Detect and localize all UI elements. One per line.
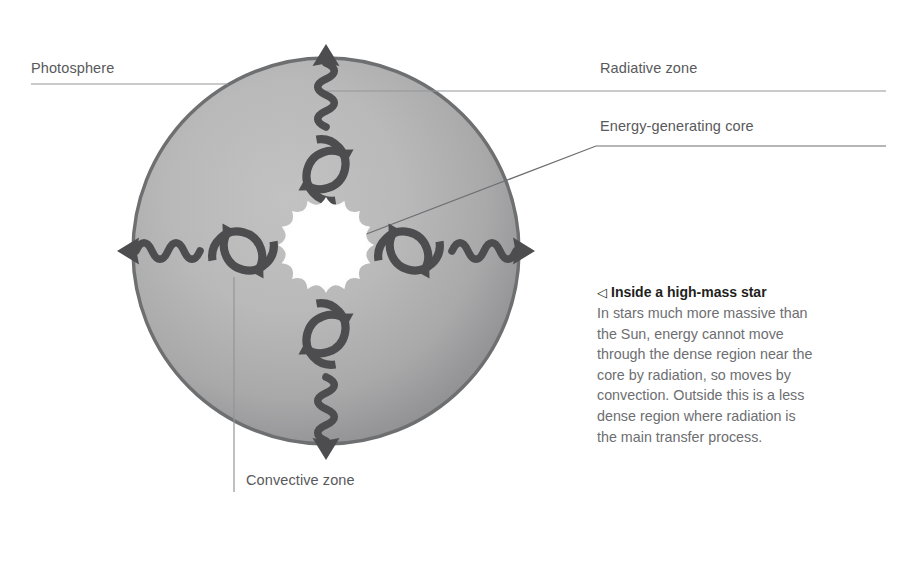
caption-block: ◁Inside a high-mass star In stars much m… <box>597 283 815 447</box>
label-radiative-zone: Radiative zone <box>600 60 697 76</box>
label-convective-zone: Convective zone <box>246 472 355 488</box>
caption-heading: ◁Inside a high-mass star <box>597 283 815 302</box>
caption-heading-text: Inside a high-mass star <box>611 284 767 300</box>
label-energy-generating-core: Energy-generating core <box>600 118 754 134</box>
label-photosphere: Photosphere <box>31 60 114 76</box>
figure-canvas: Photosphere Radiative zone Energy-genera… <box>0 0 904 564</box>
caption-body: In stars much more massive than the Sun,… <box>597 303 815 447</box>
left-triangle-icon: ◁ <box>597 284 607 302</box>
starburst-icon <box>278 197 374 293</box>
star-cross-section-diagram <box>0 0 904 564</box>
